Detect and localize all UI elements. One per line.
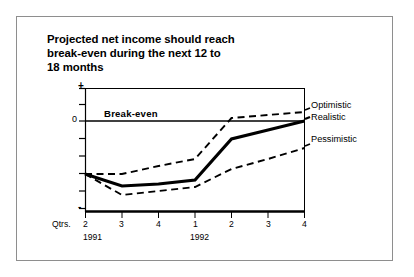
y-axis-positive-marker: + bbox=[78, 80, 84, 91]
x-tick-label-1: 3 bbox=[119, 219, 124, 229]
x-tick-label-6: 4 bbox=[302, 219, 307, 229]
series-label-leaders bbox=[305, 108, 310, 146]
x-axis-year-1991: 1991 bbox=[83, 232, 102, 242]
x-tick-label-4: 2 bbox=[229, 219, 234, 229]
x-tick-label-5: 3 bbox=[266, 219, 271, 229]
chart-figure: Projected net income should reach break-… bbox=[0, 0, 414, 277]
y-axis-negative-marker: - bbox=[78, 201, 81, 212]
plot-area: + 0 - Break-even Optimistic Realistic Pe… bbox=[0, 0, 414, 277]
x-tick-label-0: 2 bbox=[83, 219, 88, 229]
x-axis-prefix-label: Qtrs. bbox=[52, 219, 71, 229]
x-axis-year-1992: 1992 bbox=[190, 232, 209, 242]
y-axis-zero-label: 0 bbox=[72, 114, 77, 124]
x-tick-label-2: 4 bbox=[156, 219, 161, 229]
x-axis-ticks bbox=[86, 212, 305, 218]
legend-label-realistic: Realistic bbox=[311, 112, 346, 122]
legend-label-pessimistic: Pessimistic bbox=[311, 134, 357, 144]
legend-label-optimistic: Optimistic bbox=[311, 100, 351, 110]
series-line-realistic bbox=[85, 121, 305, 186]
y-axis-ticks bbox=[79, 89, 85, 209]
breakeven-annotation: Break-even bbox=[104, 108, 158, 119]
x-tick-label-3: 1 bbox=[193, 219, 198, 229]
series-line-pessimistic bbox=[85, 148, 305, 195]
